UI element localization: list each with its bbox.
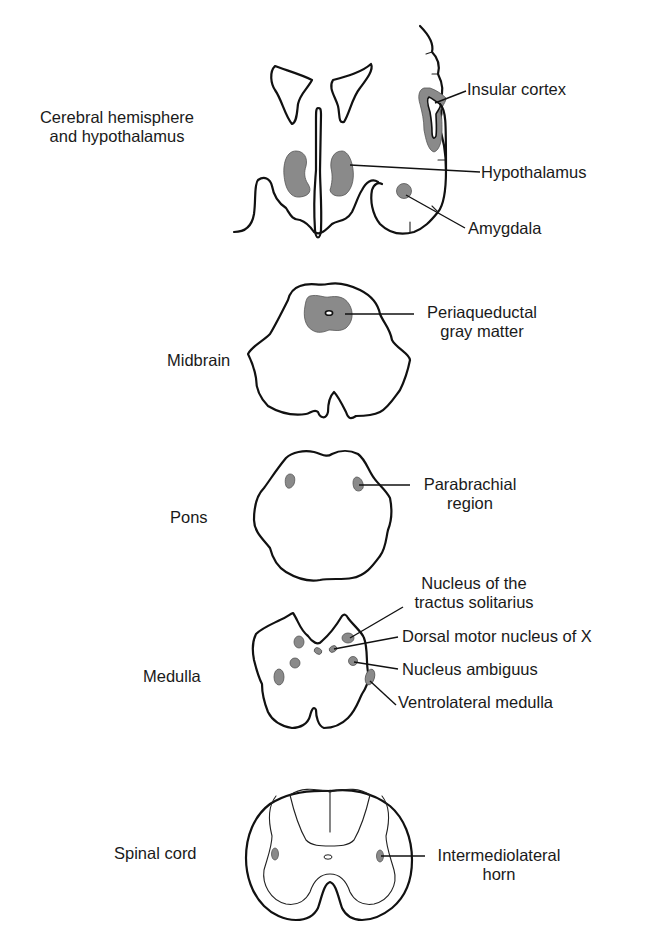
medulla-section — [253, 613, 377, 728]
label-insular-cortex: Insular cortex — [467, 80, 566, 99]
pag-line-2: gray matter — [412, 322, 552, 341]
pons-section — [254, 451, 391, 581]
midbrain-section — [248, 283, 410, 418]
third-ventricle — [314, 108, 321, 238]
label-periaqueductal-gray: Periaqueductal gray matter — [412, 303, 552, 341]
label-nucleus-ambiguus: Nucleus ambiguus — [402, 660, 538, 679]
nts-right — [342, 633, 354, 643]
iml-left — [272, 848, 279, 860]
cerebral-title-line-2: and hypothalamus — [20, 127, 214, 146]
leader-vlm — [370, 681, 396, 705]
label-amygdala: Amygdala — [468, 219, 541, 238]
label-hypothalamus: Hypothalamus — [481, 163, 586, 182]
ambiguus-left — [290, 658, 300, 668]
section-title-midbrain: Midbrain — [167, 351, 230, 370]
hypothalamus-right — [330, 151, 353, 196]
label-nucleus-tractus-solitarius: Nucleus of the tractus solitarius — [400, 574, 548, 612]
cerebral-title-line-1: Cerebral hemisphere — [20, 108, 214, 127]
leader-hypothalamus — [350, 165, 480, 172]
spinal-cord-section — [246, 789, 412, 920]
label-intermediolateral-horn: Intermediolateral horn — [424, 846, 574, 884]
cerebral-section — [234, 26, 446, 238]
label-parabrachial-region: Parabrachial region — [410, 475, 530, 513]
cerebral-aqueduct — [325, 311, 332, 316]
central-canal — [324, 855, 332, 859]
right-lateral-ventricle — [331, 64, 371, 122]
label-ventrolateral-medulla: Ventrolateral medulla — [398, 693, 553, 712]
iml-line-1: Intermediolateral — [424, 846, 574, 865]
ambiguus-right — [349, 657, 358, 666]
vlm-left — [274, 669, 284, 685]
section-title-spinal-cord: Spinal cord — [114, 844, 197, 863]
hypothalamus-left — [284, 151, 310, 197]
leader-amygdala — [406, 195, 465, 228]
medulla-outline — [253, 613, 369, 728]
pag-line-1: Periaqueductal — [412, 303, 552, 322]
parabrachial-line-1: Parabrachial — [410, 475, 530, 494]
parabrachial-line-2: region — [410, 494, 530, 513]
nts-left — [294, 636, 304, 648]
nts-line-2: tractus solitarius — [400, 593, 548, 612]
section-title-cerebral: Cerebral hemisphere and hypothalamus — [20, 108, 214, 146]
pons-outline — [254, 451, 391, 581]
label-dorsal-motor-nucleus-x: Dorsal motor nucleus of X — [402, 627, 592, 646]
iml-line-2: horn — [424, 865, 574, 884]
leader-nts — [350, 607, 403, 638]
section-title-pons: Pons — [170, 508, 208, 527]
left-lateral-ventricle — [271, 66, 312, 124]
nts-line-1: Nucleus of the — [400, 574, 548, 593]
section-title-medulla: Medulla — [143, 667, 201, 686]
